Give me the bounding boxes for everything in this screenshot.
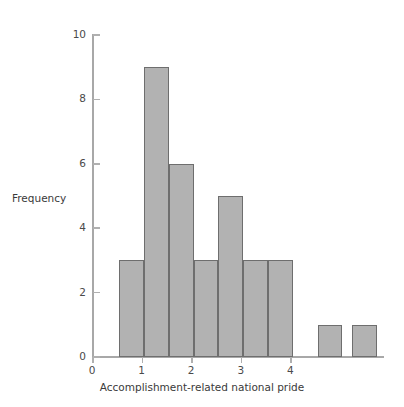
x-axis-tick — [142, 357, 144, 363]
y-axis-tick-label: 8 — [58, 93, 86, 104]
histogram-bar — [268, 260, 293, 357]
histogram-figure: Frequency 0246810 01234 Accomplishment-r… — [0, 0, 404, 407]
histogram-bar — [218, 196, 243, 357]
x-axis-tick — [241, 357, 243, 363]
histogram-bar — [144, 67, 169, 357]
y-axis-label: Frequency — [12, 192, 66, 204]
y-axis-tick-label: 2 — [58, 287, 86, 298]
x-axis-tick — [290, 357, 292, 363]
x-axis-tick — [191, 357, 193, 363]
histogram-bar — [243, 260, 268, 357]
y-axis-tick-label: 0 — [58, 351, 86, 362]
x-axis-tick-label: 4 — [275, 364, 305, 376]
x-axis-tick-label: 3 — [226, 364, 256, 376]
histogram-bar — [318, 325, 343, 357]
x-axis-label: Accomplishment-related national pride — [0, 381, 404, 393]
y-axis-tick-label: 10 — [58, 29, 86, 40]
x-axis-tick-label: 1 — [127, 364, 157, 376]
plot-area — [92, 35, 382, 357]
histogram-bar — [352, 325, 377, 357]
histogram-bar — [169, 164, 194, 357]
y-axis-tick-label: 4 — [58, 222, 86, 233]
y-axis-tick-label: 6 — [58, 158, 86, 169]
histogram-bar — [194, 260, 219, 357]
x-axis-tick-label: 2 — [176, 364, 206, 376]
histogram-bar — [119, 260, 144, 357]
x-axis-tick-label: 0 — [77, 364, 107, 376]
x-axis-tick — [92, 357, 94, 363]
